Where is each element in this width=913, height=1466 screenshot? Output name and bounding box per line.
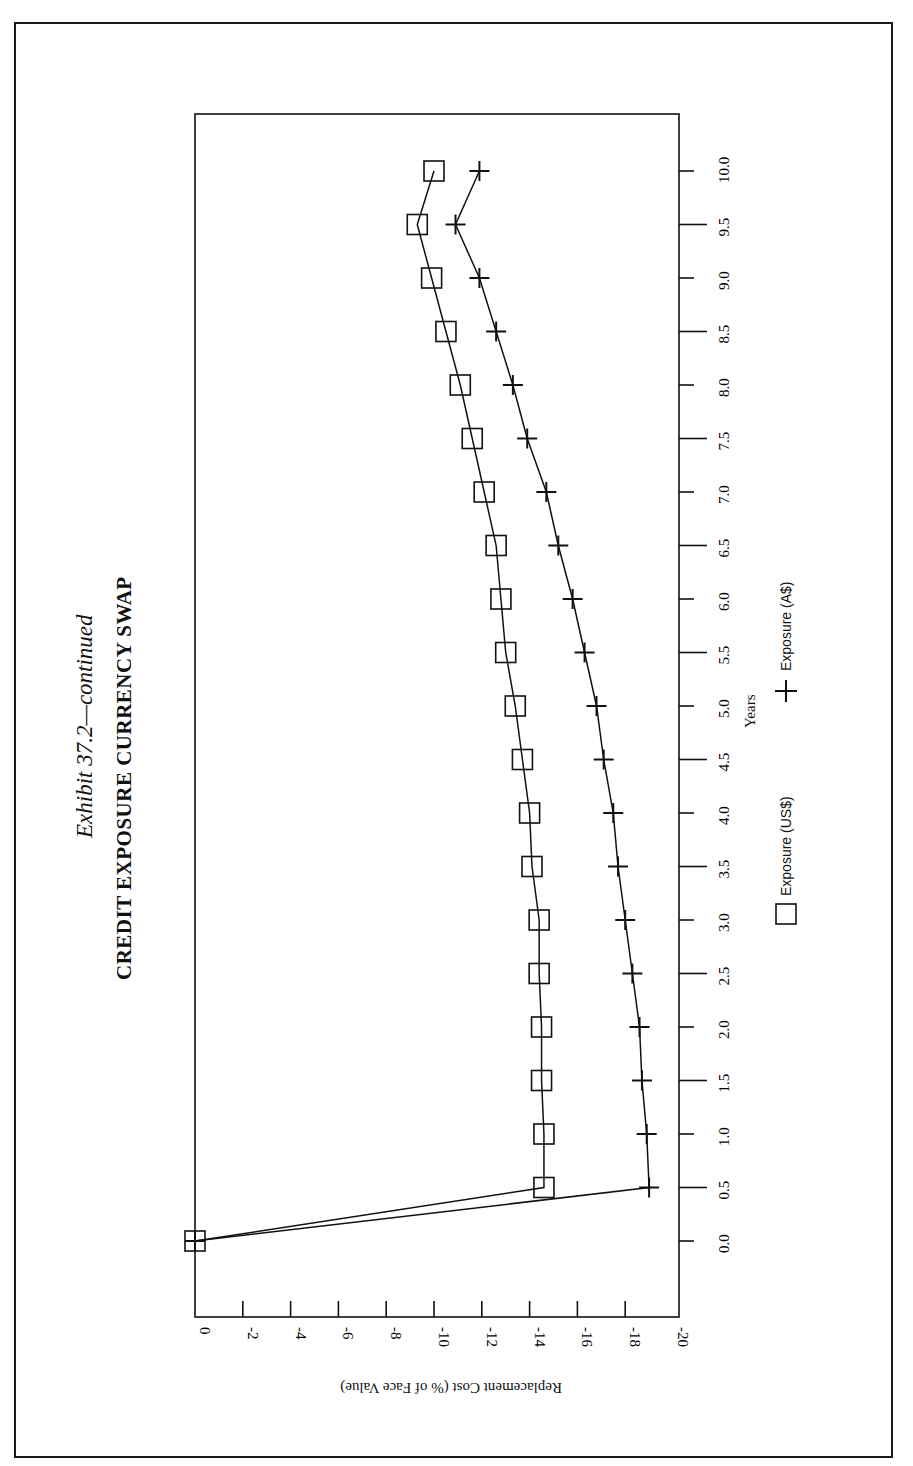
y-axis-ticks: 0-2-4-6-8-10-12-14-16-18-20	[197, 1301, 691, 1347]
x-tick-label: 1.5	[716, 1074, 732, 1093]
x-tick-label: 0.0	[716, 1234, 732, 1253]
plot-border	[195, 114, 679, 1317]
x-axis-ticks: 0.00.51.01.52.02.53.03.54.04.55.05.56.06…	[679, 157, 732, 1253]
x-tick-label: 8.0	[716, 378, 732, 397]
x-tick-label: 6.0	[716, 592, 732, 611]
x-tick-label: 5.0	[716, 699, 732, 718]
y-tick-label: -14	[532, 1327, 548, 1347]
plot-area	[195, 114, 679, 1317]
y-tick-label: -8	[388, 1327, 404, 1340]
x-tick-label: 0.5	[716, 1181, 732, 1200]
y-tick-label: 0	[197, 1327, 213, 1335]
y-tick-label: -6	[340, 1327, 356, 1340]
x-tick-label: 9.0	[716, 271, 732, 290]
x-tick-label: 4.0	[716, 806, 732, 825]
x-tick-label: 2.0	[716, 1020, 732, 1039]
series-exposure-aud	[185, 161, 659, 1251]
x-tick-label: 1.0	[716, 1127, 732, 1146]
y-tick-label: -20	[675, 1327, 691, 1347]
y-tick-label: -10	[436, 1327, 452, 1347]
legend-markers	[775, 680, 797, 924]
y-tick-label: -16	[579, 1327, 595, 1347]
y-tick-label: -18	[627, 1327, 643, 1347]
x-tick-label: 4.5	[716, 753, 732, 772]
x-tick-label: 3.5	[716, 860, 732, 879]
x-tick-label: 8.5	[716, 325, 732, 344]
y-tick-label: -12	[484, 1327, 500, 1347]
x-tick-label: 6.5	[716, 539, 732, 558]
x-tick-label: 3.0	[716, 913, 732, 932]
x-tick-label: 2.5	[716, 967, 732, 986]
series-exposure-usd	[185, 161, 554, 1251]
x-tick-label: 9.5	[716, 218, 732, 237]
x-tick-label: 7.5	[716, 432, 732, 451]
series-line	[195, 171, 649, 1241]
x-tick-label: 5.5	[716, 646, 732, 665]
legend-square-icon	[776, 904, 796, 924]
y-tick-label: -4	[293, 1327, 309, 1340]
x-tick-label: 10.0	[716, 157, 732, 183]
x-tick-label: 7.0	[716, 485, 732, 504]
chart-canvas: 0-2-4-6-8-10-12-14-16-18-20 0.00.51.01.5…	[0, 0, 913, 1466]
y-tick-label: -2	[245, 1327, 261, 1340]
